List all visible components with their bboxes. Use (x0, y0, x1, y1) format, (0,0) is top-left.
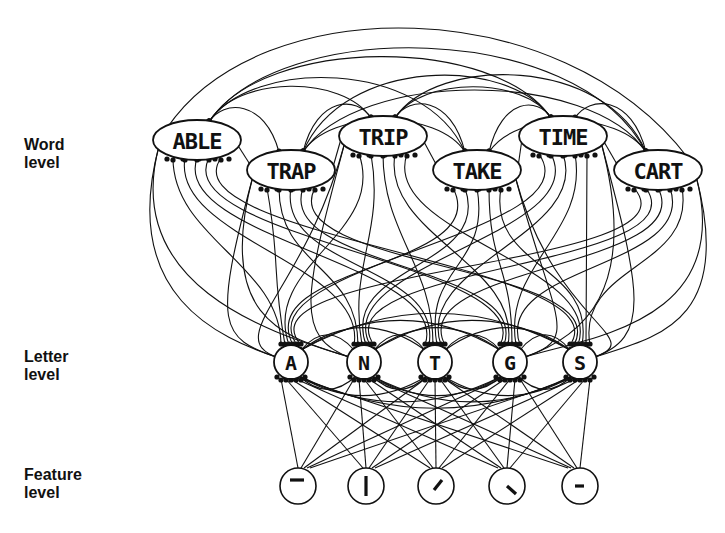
word-node-label: TRIP (359, 125, 409, 150)
word-node-trip: TRIP (339, 116, 427, 156)
word-node-cart: CART (614, 150, 702, 190)
feature-node-forward-diagonal (418, 468, 454, 504)
word-node-label: CART (634, 159, 684, 184)
word-node-take: TAKE (433, 150, 521, 190)
letter-node-G: G (493, 345, 527, 379)
word-node-able: ABLE (153, 120, 241, 160)
word-node-label: ABLE (173, 129, 222, 154)
word-node-label: TAKE (453, 159, 502, 184)
word-level-nodes: ABLETRAPTRIPTAKETIMECART (153, 116, 702, 190)
word-node-label: TRAP (267, 159, 317, 184)
feature-node-horizontal-top-bar (280, 468, 316, 504)
letter-node-N: N (347, 345, 381, 379)
feature-level-nodes (280, 468, 598, 504)
letter-node-T: T (418, 345, 452, 379)
letter-node-S: S (563, 345, 597, 379)
letter-node-label: A (285, 351, 297, 375)
word-node-trap: TRAP (247, 150, 335, 190)
feature-node-back-diagonal (489, 468, 525, 504)
connections (150, 28, 707, 468)
letter-node-A: A (274, 345, 308, 379)
letter-node-label: S (574, 351, 586, 375)
word-node-time: TIME (519, 116, 607, 156)
feature-node-vertical-bar (348, 468, 384, 504)
letter-node-label: T (429, 351, 441, 375)
letter-node-label: G (504, 351, 516, 375)
word-node-label: TIME (539, 125, 588, 150)
interactive-activation-network: ANTGS ABLETRAPTRIPTAKETIMECART (0, 0, 725, 533)
letter-node-label: N (358, 351, 370, 375)
feature-node-horizontal-mid-bar (562, 468, 598, 504)
